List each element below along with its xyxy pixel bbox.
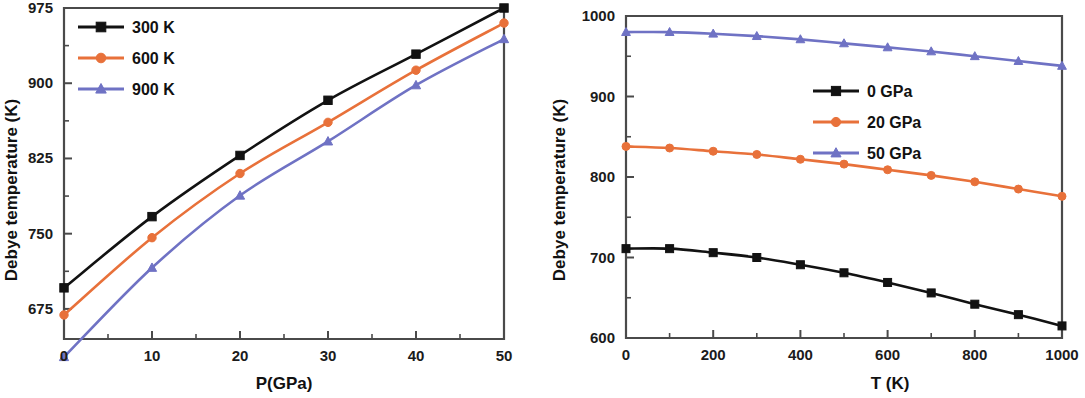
right-data-point-marker (927, 289, 935, 297)
right-data-point-marker (796, 261, 804, 269)
figure-container: 01020304050 675750825900975 300 K600 K90… (0, 0, 1085, 398)
left-data-point-marker (236, 169, 244, 177)
right-series-group (622, 28, 1067, 330)
right-y-tick-label: 700 (590, 249, 615, 266)
left-y-tick-marks (64, 8, 72, 309)
left-y-tick-label: 900 (28, 74, 53, 91)
right-data-point-marker (1058, 192, 1066, 200)
right-data-point-marker (927, 171, 935, 179)
right-chart-svg: 02004006008001000 6007008009001000 0 GPa… (545, 0, 1085, 398)
left-y-tick-label: 750 (28, 225, 53, 242)
left-series-line (64, 39, 504, 357)
left-data-point-marker (412, 66, 420, 74)
right-x-tick-label: 600 (875, 346, 900, 363)
right-y-tick-label: 900 (590, 88, 615, 105)
left-x-tick-marks (64, 331, 504, 339)
right-data-point-marker (840, 269, 848, 277)
right-x-tick-label: 200 (701, 346, 726, 363)
left-x-tick-labels: 01020304050 (60, 347, 513, 364)
right-y-tick-marks (626, 16, 634, 338)
legend-swatch-marker (96, 53, 106, 63)
right-series-line (626, 248, 1062, 326)
right-data-point-marker (753, 150, 761, 158)
left-data-point-marker (324, 96, 332, 104)
right-series-line (626, 32, 1062, 66)
right-x-tick-label: 400 (788, 346, 813, 363)
right-data-point-marker (1014, 311, 1022, 319)
left-data-point-marker (500, 19, 508, 27)
right-x-tick-label: 0 (622, 346, 630, 363)
left-data-point-marker (148, 212, 156, 220)
left-y-tick-label: 825 (28, 149, 53, 166)
legend-swatch-marker (96, 22, 106, 32)
right-data-point-marker (884, 166, 892, 174)
left-y-axis-title: Debye temperature (K) (2, 99, 21, 281)
legend-label: 600 K (132, 50, 175, 67)
right-y-tick-label: 800 (590, 168, 615, 185)
left-x-tick-label: 0 (60, 347, 68, 364)
right-x-tick-marks (626, 330, 1062, 338)
chart-panel-left: 01020304050 675750825900975 300 K600 K90… (0, 0, 545, 398)
right-data-point-marker (709, 249, 717, 257)
right-data-point-marker (666, 144, 674, 152)
left-x-tick-label: 30 (320, 347, 337, 364)
left-x-tick-label: 50 (496, 347, 513, 364)
right-data-point-marker (666, 245, 674, 253)
legend-label: 300 K (132, 19, 175, 36)
right-y-tick-labels: 6007008009001000 (582, 7, 615, 346)
right-data-point-marker (796, 155, 804, 163)
left-data-point-marker (236, 151, 244, 159)
legend-label: 20 GPa (867, 114, 921, 131)
right-data-point-marker (971, 178, 979, 186)
chart-panel-right: 02004006008001000 6007008009001000 0 GPa… (545, 0, 1085, 398)
right-data-point-marker (1058, 322, 1066, 330)
right-plot-frame (626, 16, 1062, 338)
right-x-tick-label: 800 (962, 346, 987, 363)
right-x-tick-label: 1000 (1045, 346, 1078, 363)
left-x-axis-title: P(GPa) (256, 374, 313, 393)
right-data-point-marker (884, 278, 892, 286)
left-series-group (59, 4, 508, 361)
right-x-axis-title: T (K) (871, 374, 910, 393)
left-data-point-marker (412, 50, 420, 58)
right-axes (626, 16, 1062, 338)
left-data-point-marker (60, 311, 68, 319)
right-data-point-marker (622, 245, 630, 253)
left-data-point-marker (324, 118, 332, 126)
legend-label: 50 GPa (867, 145, 921, 162)
left-legend: 300 K600 K900 K (78, 19, 175, 98)
left-data-point-marker (500, 4, 508, 12)
right-data-point-marker (1014, 185, 1022, 193)
legend-label: 0 GPa (867, 83, 912, 100)
right-data-point-marker (709, 147, 717, 155)
right-data-point-marker (971, 300, 979, 308)
right-data-point-marker (753, 254, 761, 262)
left-x-tick-label: 10 (144, 347, 161, 364)
left-y-tick-label: 675 (28, 300, 53, 317)
left-chart-svg: 01020304050 675750825900975 300 K600 K90… (0, 0, 545, 398)
legend-label: 900 K (132, 81, 175, 98)
left-y-tick-label: 975 (28, 0, 53, 16)
left-x-tick-label: 40 (408, 347, 425, 364)
legend-swatch-marker (831, 86, 840, 95)
left-data-point-marker (148, 233, 156, 241)
right-y-tick-label: 600 (590, 329, 615, 346)
right-legend: 0 GPa20 GPa50 GPa (813, 83, 921, 162)
right-y-axis-title: Debye temperature (K) (550, 99, 569, 281)
right-x-tick-labels: 02004006008001000 (622, 346, 1079, 363)
left-data-point-marker (60, 284, 68, 292)
left-y-tick-labels: 675750825900975 (28, 0, 53, 317)
left-data-point-marker (499, 34, 508, 42)
right-data-point-marker (622, 142, 630, 150)
left-x-tick-label: 20 (232, 347, 249, 364)
legend-swatch-marker (831, 117, 840, 126)
right-y-tick-label: 1000 (582, 7, 615, 24)
right-data-point-marker (840, 160, 848, 168)
